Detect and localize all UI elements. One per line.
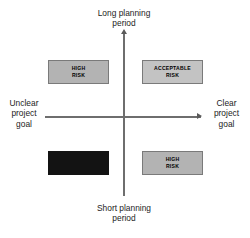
quadrant-label-line2: RISK (166, 72, 179, 79)
quadrant-label-line1: HIGH (72, 65, 86, 72)
quadrant-label-line2: RISK (166, 163, 179, 170)
quadrant-label-line2: RISK (72, 72, 85, 79)
risk-matrix-diagram: Long planning period Short planning peri… (0, 0, 250, 238)
quadrant-box-top-right: ACCEPTABLE RISK (142, 60, 203, 84)
quadrant-label-line1: HIGH (166, 156, 180, 163)
axis-label-short-planning-period: Short planning period (74, 203, 174, 224)
vertical-axis-line (123, 33, 125, 196)
up-arrow-icon (121, 29, 127, 34)
quadrant-box-bottom-right: HIGH RISK (142, 151, 203, 175)
axis-label-unclear-project-goal: Unclear project goal (2, 98, 46, 129)
quadrant-box-bottom-left (48, 151, 109, 175)
quadrant-box-top-left: HIGH RISK (48, 60, 109, 84)
quadrant-label-line1: ACCEPTABLE (154, 65, 191, 72)
horizontal-axis-line (45, 116, 201, 118)
axis-label-long-planning-period: Long planning period (74, 8, 174, 29)
axis-label-clear-project-goal: Clear project goal (204, 98, 249, 129)
right-arrow-icon (197, 113, 202, 119)
